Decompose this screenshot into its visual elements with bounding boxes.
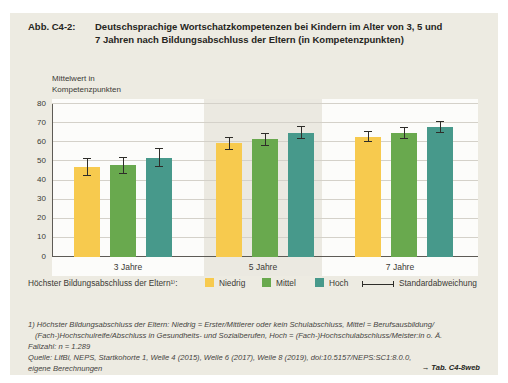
errorbar-line [301,126,302,139]
errorbar-mittel-5-jahre [260,133,270,146]
gridline [52,122,478,123]
gridline [52,103,478,104]
x-axis-label-5-jahre: 5 Jahre [223,262,303,272]
errorbar-niedrig-5-jahre [224,137,234,150]
legend-label: Höchster Bildungsabschluss der Eltern¹⁾: [28,278,178,288]
errorbar-mittel-7-jahre [399,127,409,139]
y-tick-label: 10 [10,232,46,241]
errorbar-niedrig-3-jahre [82,158,92,176]
errorbar-label: Standardabweichung [399,278,477,288]
errorbar-hoch-3-jahre [154,148,164,166]
footnote-line: eigene Berechnungen [28,363,480,374]
table-link[interactable]: → Tab. C4-8web [422,363,480,372]
y-tick-label: 60 [10,137,46,146]
footnote-line: Fallzahl: n = 1.289 [28,341,480,352]
errorbar-line [123,157,124,174]
errorbar-line [440,121,441,133]
x-axis-label-3-jahre: 3 Jahre [88,262,168,272]
bar-niedrig-7-jahre [355,137,381,257]
bar-mittel-7-jahre [391,133,417,257]
footnote-line: Quelle: LIfBi, NEPS, Startkohorte 1, Wel… [28,352,480,363]
y-tick-label: 50 [10,156,46,165]
y-axis-line [52,104,53,257]
footnotes: 1) Höchster Bildungsabschluss der Eltern… [28,319,480,374]
footnote-line: 1) Höchster Bildungsabschluss der Eltern… [28,319,480,330]
y-tick-label: 20 [10,213,46,222]
legend-swatch-mittel [262,278,271,287]
y-tick-label: 30 [10,194,46,203]
bar-hoch-3-jahre [146,158,172,257]
y-tick-label: 40 [10,175,46,184]
legend-item-mittel: Mittel [276,278,296,288]
page: { "figure": { "label": "Abb. C4-2:", "ti… [0,0,508,383]
errorbar-line [87,158,88,176]
bar-niedrig-3-jahre [74,167,100,257]
bar-mittel-5-jahre [252,139,278,257]
errorbar-niedrig-7-jahre [363,131,373,142]
legend-swatch-niedrig [205,278,214,287]
bar-hoch-7-jahre [427,127,453,257]
bar-hoch-5-jahre [288,133,314,257]
legend-item-niedrig: Niedrig [219,278,245,288]
plot-area [52,104,478,257]
errorbar-line [159,148,160,166]
legend-item-hoch: Hoch [329,278,348,288]
legend-swatch-hoch [315,278,324,287]
x-axis-label-7-jahre: 7 Jahre [360,262,440,272]
y-tick-label: 70 [10,118,46,127]
y-tick-label: 0 [10,252,46,261]
errorbar-line [404,127,405,139]
figure-panel: Abb. C4-2: Deutschsprachige Wortschatzko… [10,13,498,375]
footnote-line: (Fach-)Hochschulreife/Abschluss in Gesun… [28,330,480,341]
bar-mittel-3-jahre [110,165,136,257]
y-tick-label: 80 [10,99,46,108]
errorbar-hoch-7-jahre [435,121,445,133]
errorbar-icon [362,281,394,287]
errorbar-line [229,137,230,150]
errorbar-hoch-5-jahre [296,126,306,139]
bar-niedrig-5-jahre [216,143,242,257]
chart-legend: Höchster Bildungsabschluss der Eltern¹⁾:… [28,277,480,290]
errorbar-line [265,133,266,146]
errorbar-line [368,131,369,142]
errorbar-mittel-3-jahre [118,157,128,174]
